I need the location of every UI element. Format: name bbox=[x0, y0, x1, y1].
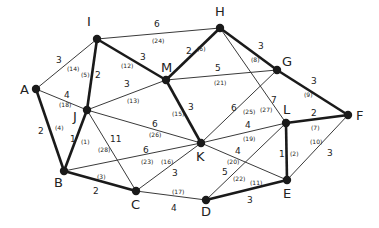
edge-weight-label: 4 bbox=[235, 146, 241, 156]
edge-weight-label: 1 bbox=[279, 149, 285, 159]
node-F bbox=[344, 111, 352, 119]
edge-order-label: (28) bbox=[98, 146, 110, 153]
node-D bbox=[202, 196, 210, 204]
edge-weight-label: 3 bbox=[124, 79, 130, 89]
edge-weight-label: 11 bbox=[110, 134, 121, 144]
node-label: D bbox=[201, 204, 211, 219]
edge-C-D bbox=[136, 191, 206, 200]
edge-order-label: (27) bbox=[260, 106, 272, 113]
node-label: L bbox=[283, 102, 291, 117]
edge-weight-label: 3 bbox=[172, 168, 178, 178]
edge-order-label: (4) bbox=[55, 124, 64, 131]
node-label: B bbox=[54, 175, 63, 190]
edge-order-label: (9) bbox=[304, 91, 313, 98]
node-label: E bbox=[283, 186, 291, 201]
edge-B-K bbox=[64, 143, 201, 171]
edge-weight-label: 6 bbox=[143, 145, 149, 155]
edge-weight-label: 4 bbox=[64, 90, 70, 100]
edge-weight-label: 3 bbox=[140, 52, 146, 62]
edge-weight-label: 7 bbox=[271, 95, 277, 105]
edge-order-label: (8) bbox=[251, 56, 260, 63]
node-label: F bbox=[356, 108, 363, 123]
node-G bbox=[273, 66, 281, 74]
edges-layer bbox=[36, 28, 348, 200]
edge-weight-label: 2 bbox=[38, 126, 44, 136]
edge-weight-label: 3 bbox=[311, 76, 317, 86]
node-label: K bbox=[196, 149, 205, 164]
node-label: G bbox=[282, 54, 292, 69]
edge-order-label: (18) bbox=[59, 101, 71, 108]
edge-L-F bbox=[286, 115, 348, 123]
edge-H-G bbox=[220, 28, 277, 70]
node-label: A bbox=[20, 82, 29, 97]
edge-order-label: (14) bbox=[67, 65, 79, 72]
node-H bbox=[216, 24, 224, 32]
edge-order-label: (6) bbox=[197, 45, 206, 52]
edge-order-label: (24) bbox=[152, 37, 164, 44]
edge-order-label: (3) bbox=[97, 173, 106, 180]
edge-weight-label: 5 bbox=[215, 63, 221, 73]
edge-order-label: (23) bbox=[141, 158, 153, 165]
edge-weight-label: 3 bbox=[327, 148, 333, 158]
edge-order-label: (11) bbox=[250, 179, 262, 186]
node-label: C bbox=[131, 197, 140, 212]
edge-order-label: (17) bbox=[172, 188, 184, 195]
edge-weight-label: 3 bbox=[258, 41, 264, 51]
edge-weight-label: 3 bbox=[188, 102, 194, 112]
edge-order-label: (16) bbox=[161, 158, 173, 165]
edge-order-label: (7) bbox=[311, 124, 320, 131]
node-J bbox=[83, 106, 91, 114]
edge-order-label: (22) bbox=[233, 175, 245, 182]
node-label: I bbox=[87, 14, 91, 29]
node-K bbox=[197, 139, 205, 147]
edge-order-label: (2) bbox=[290, 150, 299, 157]
edge-H-M bbox=[166, 28, 220, 80]
node-label: M bbox=[161, 60, 172, 75]
edge-weight-label: 2 bbox=[311, 108, 317, 118]
edge-I-M bbox=[97, 39, 166, 80]
edge-order-label: (1) bbox=[81, 138, 90, 145]
edge-weight-label: 3 bbox=[247, 195, 253, 205]
edge-weight-label: 2 bbox=[186, 46, 192, 56]
edge-order-label: (15) bbox=[172, 110, 184, 117]
edge-order-label: (12) bbox=[121, 62, 133, 69]
edge-order-label: (20) bbox=[227, 158, 239, 165]
edge-order-label: (13) bbox=[127, 97, 139, 104]
edge-weight-label: 3 bbox=[56, 55, 62, 65]
edge-weight-label: 4 bbox=[171, 203, 177, 213]
edge-weight-label: 5 bbox=[222, 167, 228, 177]
node-M bbox=[162, 76, 170, 84]
edge-weight-label: 6 bbox=[154, 19, 160, 29]
edge-I-A bbox=[36, 39, 97, 89]
edge-weight-label: 2 bbox=[95, 70, 101, 80]
edge-order-label: (21) bbox=[214, 79, 226, 86]
edge-weight-label: 1 bbox=[70, 134, 76, 144]
edge-weight-label: 4 bbox=[245, 120, 251, 130]
node-label: H bbox=[215, 4, 225, 19]
edge-order-label: (19) bbox=[243, 135, 255, 142]
edge-order-label: (26) bbox=[149, 131, 161, 138]
edge-L-E bbox=[286, 123, 287, 180]
edge-order-label: (25) bbox=[243, 108, 255, 115]
node-label: J bbox=[72, 109, 77, 124]
edge-weight-label: 2 bbox=[93, 186, 99, 196]
node-C bbox=[132, 187, 140, 195]
edge-order-label: (5) bbox=[81, 71, 90, 78]
node-A bbox=[32, 85, 40, 93]
edge-order-label: (10) bbox=[310, 138, 322, 145]
node-B bbox=[60, 167, 68, 175]
weighted-graph-diagram: 6(24)3(12)3(14)2(5)2(6)3(8)7(27)5(21)3(1… bbox=[0, 0, 379, 228]
node-L bbox=[282, 119, 290, 127]
edge-weight-label: 6 bbox=[152, 119, 158, 129]
edge-weight-label: 6 bbox=[231, 103, 237, 113]
node-E bbox=[283, 176, 291, 184]
node-I bbox=[93, 35, 101, 43]
